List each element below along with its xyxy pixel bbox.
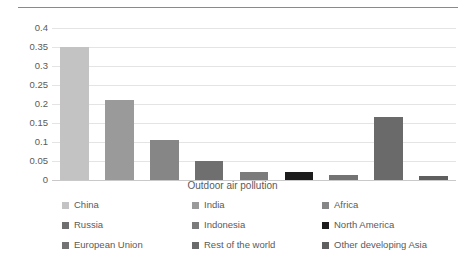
legend-swatch-icon <box>62 202 69 209</box>
legend-item-north-america[interactable]: North America <box>322 220 452 230</box>
bar-series <box>52 28 456 180</box>
legend-item-africa[interactable]: Africa <box>322 200 452 210</box>
bar-slot <box>142 28 187 180</box>
y-axis-tick-label: 0.25 <box>6 80 48 90</box>
legend-swatch-icon <box>192 202 199 209</box>
chart-legend: ChinaIndiaAfricaRussiaIndonesiaNorth Ame… <box>62 200 452 250</box>
y-axis-tick-label: 0.3 <box>6 61 48 71</box>
y-axis-tick-label: 0.05 <box>6 156 48 166</box>
x-axis-title: Outdoor air pollution <box>0 180 465 191</box>
legend-item-other-developing-asia[interactable]: Other developing Asia <box>322 240 452 250</box>
legend-swatch-icon <box>62 242 69 249</box>
legend-swatch-icon <box>192 242 199 249</box>
bar-north-america[interactable] <box>285 172 314 180</box>
bar-chart: 00.050.10.150.20.250.30.350.4 Outdoor ai… <box>0 0 465 272</box>
bar-rest-of-the-world[interactable] <box>374 117 403 180</box>
y-axis-tick-label: 0.1 <box>6 137 48 147</box>
bar-slot <box>97 28 142 180</box>
legend-swatch-icon <box>62 222 69 229</box>
bar-china[interactable] <box>60 47 89 180</box>
legend-item-indonesia[interactable]: Indonesia <box>192 220 322 230</box>
legend-swatch-icon <box>322 202 329 209</box>
legend-swatch-icon <box>192 222 199 229</box>
legend-item-label: Russia <box>74 220 103 230</box>
bar-africa[interactable] <box>150 140 179 180</box>
bar-slot <box>52 28 97 180</box>
bar-slot <box>187 28 232 180</box>
y-axis-tick-label: 0.2 <box>6 99 48 109</box>
legend-item-label: Other developing Asia <box>334 240 427 250</box>
y-axis-tick-label: 0.15 <box>6 118 48 128</box>
legend-item-label: North America <box>334 220 394 230</box>
legend-swatch-icon <box>322 222 329 229</box>
bar-india[interactable] <box>105 100 134 180</box>
y-axis-tick-label: 0.4 <box>6 23 48 33</box>
legend-item-european-union[interactable]: European Union <box>62 240 192 250</box>
legend-item-label: India <box>204 200 225 210</box>
legend-swatch-icon <box>322 242 329 249</box>
legend-item-label: Africa <box>334 200 358 210</box>
legend-item-label: Indonesia <box>204 220 245 230</box>
legend-item-india[interactable]: India <box>192 200 322 210</box>
legend-item-label: China <box>74 200 99 210</box>
legend-item-china[interactable]: China <box>62 200 192 210</box>
top-divider <box>18 7 458 8</box>
y-axis: 00.050.10.150.20.250.30.350.4 <box>6 22 48 180</box>
bar-russia[interactable] <box>195 161 224 180</box>
legend-item-label: Rest of the world <box>204 240 275 250</box>
bar-slot <box>321 28 366 180</box>
bar-slot <box>276 28 321 180</box>
plot-wrapper: 00.050.10.150.20.250.30.350.4 <box>0 22 465 180</box>
y-axis-tick-label: 0.35 <box>6 42 48 52</box>
plot-area <box>52 22 456 180</box>
bar-slot <box>411 28 456 180</box>
legend-item-russia[interactable]: Russia <box>62 220 192 230</box>
bar-indonesia[interactable] <box>240 172 269 180</box>
legend-item-label: European Union <box>74 240 143 250</box>
legend-item-rest-of-the-world[interactable]: Rest of the world <box>192 240 322 250</box>
bar-slot <box>232 28 277 180</box>
bar-slot <box>366 28 411 180</box>
